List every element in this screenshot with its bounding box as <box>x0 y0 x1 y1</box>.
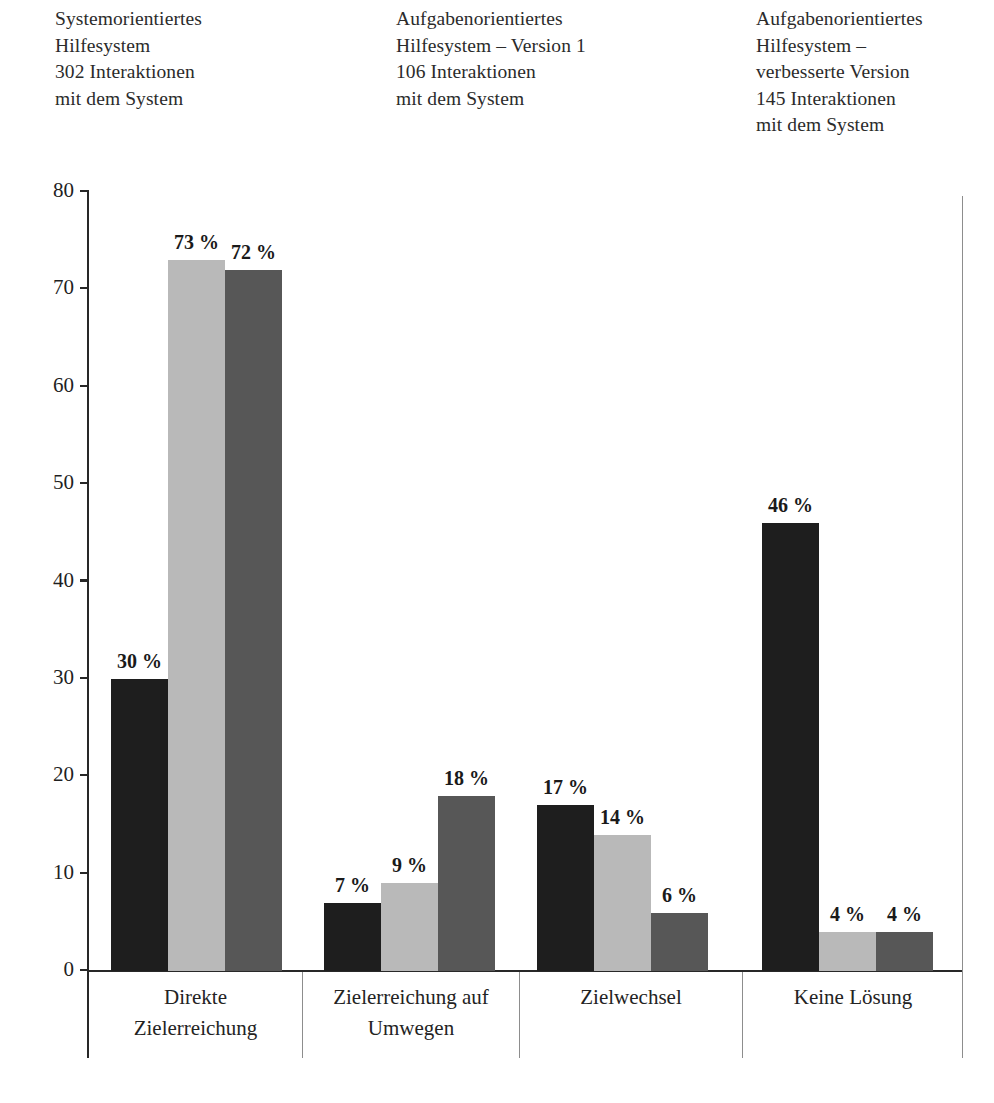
category-axis-label: Keine Lösung <box>743 982 963 1013</box>
y-axis-tick-mark <box>80 677 89 679</box>
bar <box>819 932 876 971</box>
y-axis-tick-label: 20 <box>34 764 74 785</box>
y-axis-tick-mark <box>80 969 89 971</box>
category-axis-label-line: Keine Lösung <box>743 982 963 1013</box>
y-axis-tick-label: 40 <box>34 570 74 591</box>
y-axis-tick-label: 0 <box>34 959 74 980</box>
bar-value-label: 18 % <box>424 768 509 788</box>
bar-chart: 80706050403020100 30 %73 %72 %7 %9 %18 %… <box>0 0 994 1103</box>
bar <box>324 903 381 971</box>
y-axis-tick-label: 60 <box>34 375 74 396</box>
y-axis-tick-label: 70 <box>34 277 74 298</box>
y-axis-tick-mark <box>80 190 89 192</box>
category-axis-label-line: Umwegen <box>303 1013 519 1044</box>
category-axis-label: DirekteZielerreichung <box>89 982 302 1044</box>
y-axis-tick-mark <box>80 774 89 776</box>
bar <box>381 883 438 971</box>
category-axis-label-line: Direkte <box>89 982 302 1013</box>
bar <box>438 796 495 971</box>
bar <box>111 679 168 971</box>
category-axis-label: Zielwechsel <box>520 982 742 1013</box>
bar <box>876 932 933 971</box>
bar-value-label: 6 % <box>637 885 722 905</box>
category-axis-label-line: Zielerreichung <box>89 1013 302 1044</box>
category-axis-label-line: Zielwechsel <box>520 982 742 1013</box>
bar <box>537 805 594 971</box>
bar-value-label: 46 % <box>748 495 833 515</box>
plot-right-border <box>962 196 963 1058</box>
y-axis-tick-label: 10 <box>34 862 74 883</box>
bar-value-label: 14 % <box>580 807 665 827</box>
category-axis-label: Zielerreichung aufUmwegen <box>303 982 519 1044</box>
bar-value-label: 4 % <box>862 904 947 924</box>
y-axis-tick-label: 30 <box>34 667 74 688</box>
y-axis-tick-label: 50 <box>34 472 74 493</box>
bar-value-label: 72 % <box>211 242 296 262</box>
bar-value-label: 17 % <box>523 777 608 797</box>
bar <box>225 270 282 971</box>
y-axis-tick-mark <box>80 482 89 484</box>
y-axis-tick-mark <box>80 287 89 289</box>
y-axis-line <box>87 191 89 1058</box>
y-axis-tick-mark <box>80 579 89 581</box>
y-axis-tick-label: 80 <box>34 180 74 201</box>
y-axis-tick-mark <box>80 872 89 874</box>
bar <box>651 913 708 971</box>
y-axis-tick-mark <box>80 385 89 387</box>
bar <box>168 260 225 971</box>
category-axis-label-line: Zielerreichung auf <box>303 982 519 1013</box>
